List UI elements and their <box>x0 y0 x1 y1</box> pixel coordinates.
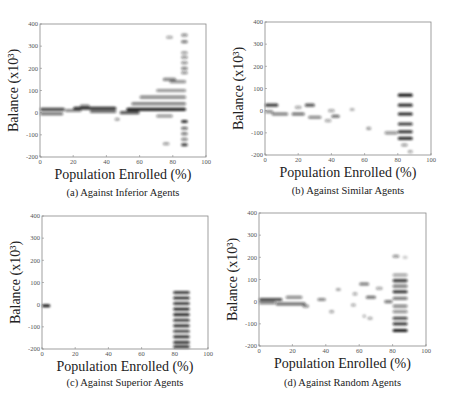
plot-frame <box>265 22 431 155</box>
x-axis-label: Population Enrolled (%) <box>274 356 411 372</box>
density-blob <box>331 115 339 118</box>
y-tick-label: 100 <box>253 85 263 92</box>
chart-panel-d: 020406080100-200-1000100200300400Populat… <box>225 209 431 389</box>
density-blob <box>336 288 341 291</box>
density-blob <box>173 296 190 299</box>
y-tick-label: 200 <box>28 65 38 72</box>
density-blob <box>181 56 188 59</box>
x-tick-label: 100 <box>426 156 436 163</box>
density-blob <box>40 112 63 115</box>
density-blob <box>265 104 278 107</box>
density-blob <box>115 118 120 121</box>
x-tick-label: 40 <box>105 350 112 357</box>
density-blob <box>40 108 65 111</box>
density-blob <box>408 150 413 153</box>
panel-caption: (b) Against Similar Agents <box>292 185 404 197</box>
x-tick-label: 100 <box>203 350 213 357</box>
density-blob <box>393 297 408 300</box>
x-tick-label: 0 <box>257 347 260 354</box>
y-tick-label: 300 <box>253 40 263 47</box>
density-blob <box>276 302 306 305</box>
density-blob <box>181 40 188 43</box>
density-blob <box>363 315 366 318</box>
x-tick-label: 20 <box>72 350 79 357</box>
density-blob <box>181 143 188 146</box>
x-tick-label: 20 <box>289 347 296 354</box>
x-tick-label: 80 <box>172 350 179 357</box>
y-tick-label: 400 <box>28 20 38 27</box>
density-blob <box>398 122 413 125</box>
density-blob <box>181 120 188 123</box>
density-blob <box>398 104 413 107</box>
density-blob <box>173 330 190 333</box>
y-tick-label: -200 <box>26 153 38 160</box>
y-axis-label: Balance (x10³) <box>8 241 24 324</box>
density-blob <box>328 109 335 112</box>
x-axis-label: Population Enrolled (%) <box>57 359 194 375</box>
panel-caption: (d) Against Random Agents <box>284 377 401 389</box>
density-blob <box>368 317 373 320</box>
density-blob <box>366 296 376 299</box>
x-tick-label: 40 <box>323 347 330 354</box>
figure-svg: 020406080100-200-1000100200300400Populat… <box>0 0 451 407</box>
density-blob <box>166 36 173 39</box>
density-blob <box>393 329 408 332</box>
y-tick-label: 0 <box>37 301 40 308</box>
x-tick-label: 40 <box>328 156 335 163</box>
density-blob <box>181 132 188 135</box>
density-blob <box>140 96 186 99</box>
x-tick-label: 60 <box>138 350 145 357</box>
density-blob <box>173 302 190 305</box>
y-tick-label: 0 <box>260 107 263 114</box>
y-axis-label: Balance (x10³) <box>225 238 241 321</box>
density-blob <box>131 102 186 105</box>
density-blob <box>181 34 188 37</box>
y-tick-label: 300 <box>30 234 40 241</box>
density-layer <box>265 94 413 154</box>
y-tick-label: 200 <box>247 254 257 261</box>
y-tick-label: 100 <box>247 276 257 283</box>
density-blob <box>325 119 332 122</box>
x-tick-label: 60 <box>356 347 363 354</box>
x-axis-label: Population Enrolled (%) <box>55 167 192 183</box>
density-blob <box>181 127 188 130</box>
density-blob <box>403 256 408 259</box>
density-blob <box>398 137 413 140</box>
density-blob <box>173 341 190 344</box>
density-blob <box>398 112 413 115</box>
x-tick-label: 20 <box>70 158 77 165</box>
density-blob <box>80 104 90 107</box>
density-blob <box>366 127 371 130</box>
x-tick-label: 0 <box>263 156 266 163</box>
density-blob <box>305 104 315 107</box>
density-blob <box>384 300 392 303</box>
y-tick-label: -100 <box>26 131 38 138</box>
y-tick-label: -100 <box>245 320 257 327</box>
panel-caption: (a) Against Inferior Agents <box>67 187 180 199</box>
density-blob <box>173 313 190 316</box>
density-blob <box>393 310 408 313</box>
density-blob <box>401 143 408 146</box>
density-blob <box>376 287 383 290</box>
density-blob <box>73 107 116 110</box>
chart-panel-b: 020406080100-200-1000100200300400Populat… <box>231 18 436 197</box>
panel-caption: (c) Against Superior Agents <box>67 377 184 389</box>
density-blob <box>90 110 117 113</box>
density-blob <box>302 305 309 308</box>
x-tick-label: 80 <box>389 347 396 354</box>
density-blob <box>393 274 408 277</box>
density-blob <box>308 116 321 119</box>
density-blob <box>295 106 302 109</box>
chart-panel-a: 020406080100-200-1000100200300400Populat… <box>6 20 211 199</box>
x-tick-label: 20 <box>295 156 302 163</box>
y-tick-label: 200 <box>30 257 40 264</box>
density-layer <box>259 255 408 332</box>
density-blob <box>120 111 140 114</box>
density-blob <box>163 142 170 145</box>
density-blob <box>393 317 408 320</box>
x-tick-label: 60 <box>136 158 143 165</box>
density-blob <box>329 310 334 313</box>
density-blob <box>359 282 369 285</box>
x-tick-label: 0 <box>38 158 41 165</box>
y-axis-label: Balance (x10³) <box>6 49 22 132</box>
